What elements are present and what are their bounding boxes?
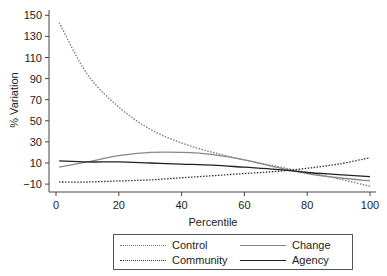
dotted-line-icon (120, 245, 166, 246)
x-axis-title: Percentile (189, 216, 238, 228)
legend-label: Agency (292, 254, 329, 266)
legend-item-community: Community (120, 253, 228, 267)
x-tick-label: 40 (175, 199, 187, 211)
dotted-line-icon (120, 260, 166, 261)
line-chart: −101030507090110130150020406080100Percen… (0, 0, 387, 232)
y-tick-label: 150 (24, 9, 42, 21)
x-tick-label: 60 (238, 199, 250, 211)
y-tick-label: 50 (30, 115, 42, 127)
series-lines (59, 23, 370, 187)
legend-item-control: Control (120, 238, 207, 252)
y-tick-label: −10 (23, 178, 42, 190)
solid-line-icon (240, 260, 286, 261)
legend-label: Community (172, 254, 228, 266)
y-axis-title: % Variation (8, 72, 20, 127)
legend-label: Control (172, 239, 207, 251)
legend: Control Change Community Agency (113, 234, 353, 270)
y-tick-label: 70 (30, 94, 42, 106)
legend-item-agency: Agency (240, 253, 329, 267)
axes: −101030507090110130150020406080100Percen… (8, 9, 379, 228)
x-tick-label: 20 (113, 199, 125, 211)
legend-label: Change (292, 239, 331, 251)
y-tick-label: 90 (30, 73, 42, 85)
series-line-agency (59, 161, 370, 177)
x-tick-label: 100 (361, 199, 379, 211)
x-tick-label: 0 (53, 199, 59, 211)
legend-item-change: Change (240, 238, 331, 252)
x-tick-label: 80 (301, 199, 313, 211)
y-tick-label: 30 (30, 136, 42, 148)
y-tick-label: 110 (24, 52, 42, 64)
solid-line-icon (240, 245, 286, 246)
y-tick-label: 130 (24, 30, 42, 42)
y-tick-label: 10 (30, 157, 42, 169)
